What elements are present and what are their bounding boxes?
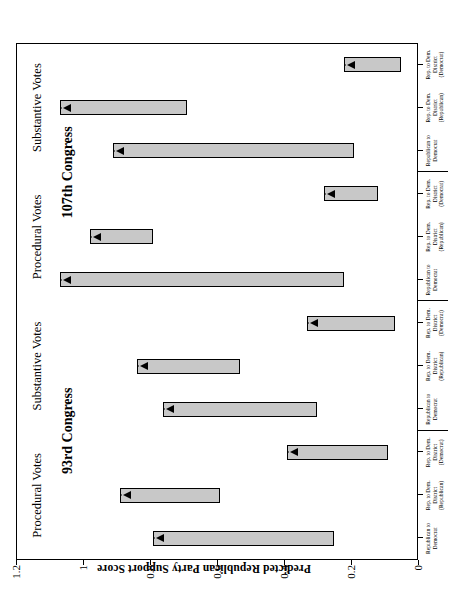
bar-center-line bbox=[138, 366, 139, 367]
bar-center-line bbox=[345, 64, 346, 65]
arrowhead-marker bbox=[63, 276, 71, 284]
x-axis-tick-mark bbox=[418, 64, 423, 65]
range-bar bbox=[60, 100, 187, 115]
range-bar bbox=[287, 445, 388, 460]
bar-center-line bbox=[61, 279, 62, 280]
congress-title: 107th Congress bbox=[60, 43, 76, 302]
group-separator bbox=[418, 171, 448, 172]
y-axis-tick-mark bbox=[284, 560, 285, 565]
x-axis-category-label: Republican to Democrat bbox=[425, 130, 438, 171]
arrowhead-marker bbox=[327, 190, 335, 198]
arrowhead-marker bbox=[123, 491, 131, 499]
x-axis-category-label: Rep. to Dem. District (Democrat) bbox=[425, 432, 445, 473]
arrowhead-marker bbox=[347, 61, 355, 69]
bar-center-line bbox=[121, 495, 122, 496]
bar-center-line bbox=[164, 409, 165, 410]
y-axis-tick-label: 0.8 bbox=[144, 560, 156, 598]
bar-center-line bbox=[308, 323, 309, 324]
arrowhead-marker bbox=[116, 147, 124, 155]
y-axis-tick-label: 0.2 bbox=[345, 560, 357, 598]
y-axis-tick-mark bbox=[351, 560, 352, 565]
bar-center-line bbox=[61, 107, 62, 108]
plot-area bbox=[16, 43, 418, 560]
x-axis-tick-mark bbox=[418, 494, 423, 495]
range-bar bbox=[324, 186, 378, 201]
vote-type-title: Procedural Votes bbox=[30, 431, 45, 560]
y-axis-tick-mark bbox=[83, 560, 84, 565]
x-axis-tick-mark bbox=[418, 537, 423, 538]
x-axis-tick-mark bbox=[418, 365, 423, 366]
x-axis-category-label: Rep. to Dem. District (Democrat) bbox=[425, 303, 445, 344]
figure-rotation-wrapper: Predicted Republican Party Support Score… bbox=[0, 0, 455, 598]
x-axis-category-label: Rep. to Dem. District (Republican) bbox=[425, 87, 445, 128]
y-axis-tick-label: 0.4 bbox=[278, 560, 290, 598]
group-separator bbox=[418, 301, 448, 302]
range-bar bbox=[90, 229, 154, 244]
arrowhead-marker bbox=[290, 448, 298, 456]
range-bar bbox=[120, 488, 221, 503]
x-axis-tick-mark bbox=[418, 107, 423, 108]
x-axis-tick-mark bbox=[418, 279, 423, 280]
bar-center-line bbox=[154, 538, 155, 539]
y-axis-tick-mark bbox=[418, 560, 419, 565]
vote-type-title: Procedural Votes bbox=[30, 172, 45, 301]
x-axis-category-label: Rep. to Dem. District (Republican) bbox=[425, 346, 445, 387]
group-separator bbox=[418, 430, 448, 431]
x-axis-category-label: Rep. to Dem. District (Democrat) bbox=[425, 44, 445, 85]
x-axis-category-label: Rep. to Dem. District (Republican) bbox=[425, 475, 445, 516]
bar-center-line bbox=[114, 150, 115, 151]
range-bar bbox=[113, 143, 354, 158]
bar-center-line bbox=[91, 236, 92, 237]
x-axis-category-label: Republican to Democrat bbox=[425, 518, 438, 559]
range-bar bbox=[60, 272, 345, 287]
x-axis-tick-mark bbox=[418, 408, 423, 409]
x-axis-tick-mark bbox=[418, 451, 423, 452]
range-bar bbox=[153, 531, 334, 546]
range-bar bbox=[163, 402, 317, 417]
x-axis-tick-mark bbox=[418, 193, 423, 194]
y-axis-tick-label: 1 bbox=[77, 560, 89, 598]
arrowhead-marker bbox=[166, 405, 174, 413]
bar-center-line bbox=[288, 452, 289, 453]
y-axis-tick-label: 0.6 bbox=[211, 560, 223, 598]
arrowhead-marker bbox=[140, 362, 148, 370]
x-axis-category-label: Republican to Democrat bbox=[425, 389, 438, 430]
range-bar bbox=[344, 57, 401, 72]
x-axis-tick-mark bbox=[418, 150, 423, 151]
range-bar bbox=[307, 316, 394, 331]
bar-center-line bbox=[325, 193, 326, 194]
arrowhead-marker bbox=[93, 233, 101, 241]
congress-title: 93rd Congress bbox=[60, 302, 76, 561]
y-axis-tick-label: 0 bbox=[412, 560, 424, 598]
range-bar bbox=[137, 359, 241, 374]
y-axis-tick-mark bbox=[16, 560, 17, 565]
y-axis-tick-mark bbox=[150, 560, 151, 565]
arrowhead-marker bbox=[310, 319, 318, 327]
vote-type-title: Substantive Votes bbox=[30, 302, 45, 431]
y-axis-tick-mark bbox=[217, 560, 218, 565]
x-axis-tick-mark bbox=[418, 236, 423, 237]
chart-figure: Predicted Republican Party Support Score… bbox=[0, 0, 455, 598]
y-axis-tick-label: 1.2 bbox=[10, 560, 22, 598]
vote-type-title: Substantive Votes bbox=[30, 43, 45, 172]
arrowhead-marker bbox=[63, 104, 71, 112]
x-axis-category-label: Republican to Democrat bbox=[425, 259, 438, 300]
x-axis-category-label: Rep. to Dem. District (Democrat) bbox=[425, 173, 445, 214]
x-axis-tick-mark bbox=[418, 322, 423, 323]
x-axis-category-label: Rep. to Dem. District (Republican) bbox=[425, 216, 445, 257]
arrowhead-marker bbox=[156, 534, 164, 542]
